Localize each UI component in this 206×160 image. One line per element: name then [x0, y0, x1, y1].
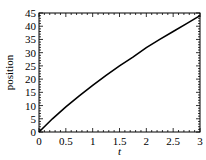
- y-tick-label: 40: [25, 20, 37, 32]
- x-tick-label: 2.5: [166, 135, 180, 147]
- position-vs-time-chart: 00.511.522.53051015202530354045 t positi…: [0, 0, 206, 160]
- y-tick-label: 30: [25, 47, 37, 59]
- x-tick-label: 0.5: [59, 135, 73, 147]
- x-tick-label: 0: [36, 135, 42, 147]
- y-tick-label: 5: [31, 113, 37, 125]
- y-tick-label: 45: [25, 7, 37, 19]
- x-tick-label: 1: [90, 135, 96, 147]
- tick-labels: 00.511.522.53051015202530354045: [25, 7, 203, 147]
- y-tick-label: 0: [31, 126, 37, 138]
- position-curve: [39, 16, 200, 132]
- y-tick-label: 15: [25, 86, 37, 98]
- x-tick-label: 2: [144, 135, 150, 147]
- y-tick-label: 35: [25, 33, 37, 45]
- y-tick-label: 20: [25, 73, 37, 85]
- x-tick-label: 3: [197, 135, 203, 147]
- y-tick-label: 25: [25, 60, 37, 72]
- y-axis-label: position: [3, 54, 15, 90]
- y-tick-label: 10: [25, 100, 37, 112]
